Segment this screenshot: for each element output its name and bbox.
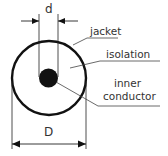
coax-diagram: d D jacket isolation inner conductor <box>0 0 168 156</box>
D-dimension-arrow <box>12 141 86 148</box>
D-label: D <box>44 125 53 139</box>
d-dimension-arrow <box>21 18 78 24</box>
inner-label-line2: conductor <box>103 90 156 102</box>
d-label: d <box>45 2 53 16</box>
inner-conductor-dot <box>39 69 58 88</box>
jacket-leader <box>73 38 118 45</box>
isolation-label: isolation <box>106 48 150 60</box>
jacket-label: jacket <box>89 25 121 37</box>
inner-label-line1: inner <box>114 77 142 89</box>
